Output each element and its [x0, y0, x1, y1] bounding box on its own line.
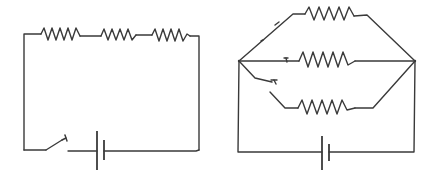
- series-bottom-wire: [24, 131, 199, 170]
- node-left: [238, 60, 240, 62]
- parallel-circuit: [238, 7, 416, 170]
- battery-icon: [322, 136, 329, 170]
- resistor-top-icon: [305, 7, 354, 20]
- branch-bottom: [239, 61, 415, 114]
- switch-icon: [239, 61, 277, 84]
- resistor-1-icon: [41, 28, 80, 40]
- series-circuit: [24, 28, 199, 170]
- branch-top: [239, 7, 415, 61]
- resistor-2-icon: [101, 29, 136, 40]
- switch-icon: [46, 135, 67, 150]
- circuit-diagrams: Series circuit: three resistors in serie…: [0, 0, 433, 187]
- node-right: [414, 60, 416, 62]
- branch-middle: [239, 52, 415, 67]
- series-top-wire: [24, 28, 199, 150]
- parallel-outer-loop: [238, 61, 415, 170]
- battery-icon: [97, 131, 104, 170]
- resistor-bottom-icon: [298, 100, 355, 114]
- resistor-middle-icon: [299, 52, 355, 67]
- resistor-3-icon: [152, 29, 190, 41]
